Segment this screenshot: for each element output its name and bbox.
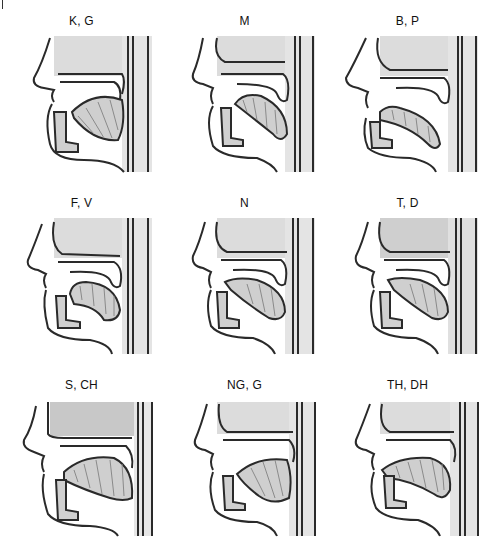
vocal-tract-illustration	[14, 34, 154, 174]
panel-label: S, CH	[0, 378, 163, 392]
panel-t-d: T, D	[326, 182, 489, 362]
panel-s-ch: S, CH	[0, 364, 163, 544]
panel-label: TH, DH	[326, 378, 489, 392]
vocal-tract-illustration	[340, 216, 480, 356]
panel-label: K, G	[0, 14, 163, 28]
panel-n: N	[163, 182, 326, 362]
panel-label: NG, G	[163, 378, 326, 392]
articulation-diagram-grid: K, G M	[0, 0, 489, 546]
vocal-tract-illustration	[340, 34, 480, 174]
vocal-tract-illustration	[14, 398, 154, 538]
vocal-tract-illustration	[177, 34, 317, 174]
panel-th-dh: TH, DH	[326, 364, 489, 544]
panel-b-p: B, P	[326, 0, 489, 180]
vocal-tract-illustration	[177, 398, 317, 538]
panel-k-g: K, G	[0, 0, 163, 180]
panel-label: N	[163, 196, 326, 210]
panel-f-v: F, V	[0, 182, 163, 362]
panel-label: T, D	[326, 196, 489, 210]
panel-label: M	[163, 14, 326, 28]
panel-label: F, V	[0, 196, 163, 210]
vocal-tract-illustration	[14, 216, 154, 356]
panel-ng-g: NG, G	[163, 364, 326, 544]
panel-label: B, P	[326, 14, 489, 28]
panel-m: M	[163, 0, 326, 180]
vocal-tract-illustration	[177, 216, 317, 356]
vocal-tract-illustration	[340, 398, 480, 538]
